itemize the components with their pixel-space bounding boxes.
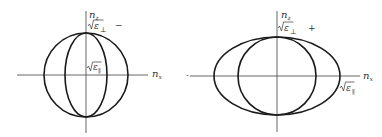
- svg-text:ε: ε: [346, 83, 351, 93]
- right-sign: +: [308, 23, 316, 33]
- index-ellipsoid-diagram: nz ε ⊥ − ε ∥ nx - nz ε ⊥ + nx ε: [0, 0, 382, 137]
- left-nz-label: nz: [89, 9, 99, 21]
- svg-text:⊥: ⊥: [100, 26, 107, 34]
- right-nx-label: nx: [363, 70, 373, 82]
- svg-text:∥: ∥: [98, 67, 101, 74]
- left-tick-mark: -: [186, 71, 189, 80]
- left-sqrt-eps-par-label: ε ∥: [87, 62, 102, 74]
- left-panel: nz ε ⊥ − ε ∥ nx -: [17, 9, 189, 133]
- svg-text:⊥: ⊥: [290, 28, 297, 36]
- svg-text:ε: ε: [94, 21, 99, 31]
- right-sqrt-eps-par-label: ε ∥: [340, 82, 355, 95]
- left-sqrt-eps-perp-label: ε ⊥: [88, 20, 107, 34]
- left-nx-label: nx: [152, 68, 162, 80]
- left-sign: −: [115, 20, 123, 30]
- right-nz-label: nz: [281, 9, 291, 21]
- right-panel: nz ε ⊥ + nx ε ∥: [190, 9, 373, 132]
- svg-text:∥: ∥: [352, 88, 355, 95]
- svg-text:ε: ε: [284, 23, 289, 33]
- right-sqrt-eps-perp-label: ε ⊥: [278, 22, 297, 36]
